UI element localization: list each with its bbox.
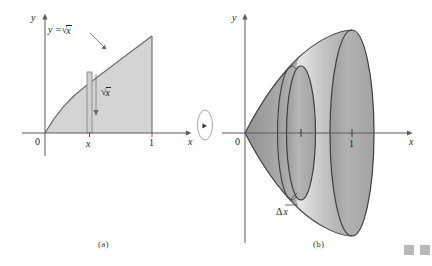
sqrt-symbol-strip: √x: [101, 86, 111, 97]
panel-b-y-axis-label: y: [232, 13, 236, 23]
sqrt-symbol-curve: √x: [62, 24, 72, 35]
representative-strip: [87, 72, 92, 133]
panel-b: y x 0 1 Δx: [200, 0, 432, 266]
strip-height-label: √x: [101, 86, 111, 97]
curve-label-leader: [90, 33, 104, 47]
strip-radicand: x: [106, 87, 111, 98]
curve-equation-lhs: y =: [48, 24, 62, 35]
region-under-curve: [45, 36, 152, 133]
curve-equation-label: y =√x: [48, 24, 72, 35]
tick-label-1: 1: [349, 139, 354, 149]
tick-label-0: 0: [35, 137, 40, 147]
delta-x-label: Δx: [276, 207, 288, 217]
panel-b-x-axis-label: x: [409, 137, 413, 147]
panel-a: y x 0 x 1 y =√x √x: [0, 0, 216, 266]
decor-squares: [404, 245, 430, 255]
caption-b: (b): [313, 239, 324, 249]
square-1: [404, 245, 414, 255]
panel-a-graphic: [0, 0, 216, 266]
tick-label-1: 1: [149, 138, 154, 148]
panel-b-graphic: [200, 0, 432, 266]
tick-label-0: 0: [235, 137, 240, 147]
delta-variable: x: [283, 206, 287, 217]
caption-a: (a): [98, 239, 109, 249]
square-2: [420, 245, 430, 255]
figure-container: y x 0 x 1 y =√x √x: [0, 0, 432, 266]
delta-symbol: Δ: [276, 206, 282, 217]
panel-a-y-axis-label: y: [31, 13, 35, 23]
tick-label-x: x: [86, 139, 90, 149]
curve-equation-radicand: x: [66, 25, 71, 36]
